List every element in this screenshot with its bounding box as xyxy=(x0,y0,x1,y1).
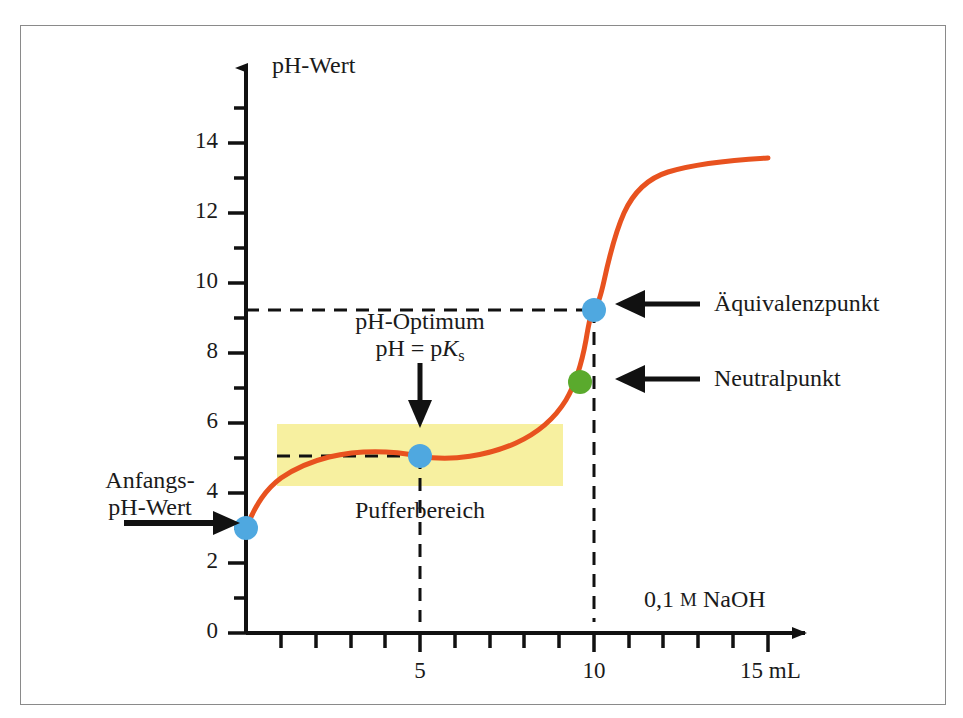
x-tick-label-15-value: 15 xyxy=(740,658,763,683)
annotation-anfangs-line1: Anfangs- xyxy=(74,467,226,494)
y-tick-label-8: 8 xyxy=(180,338,218,364)
y-tick-label-6: 6 xyxy=(180,408,218,434)
point-anfangs-ph-wert xyxy=(234,516,258,540)
x-axis-ticks xyxy=(281,633,768,652)
point-aequivalenzpunkt xyxy=(582,298,606,322)
annotation-neutralpunkt: Neutralpunkt xyxy=(714,365,841,392)
aequivalenzpunkt-arrow-icon xyxy=(615,290,700,318)
y-axis-title: pH-Wert xyxy=(272,52,355,79)
annotation-optimum-line2: pH = pKs xyxy=(300,335,540,365)
y-tick-label-12: 12 xyxy=(162,198,218,224)
annotation-ph-optimum: pH-Optimum pH = pKs xyxy=(300,308,540,365)
x-axis-title-suffix: NaOH xyxy=(697,586,766,612)
annotation-aequivalenzpunkt: Äquivalenzpunkt xyxy=(714,290,879,317)
optimum-arrow-icon xyxy=(408,363,432,428)
annotation-anfangs-line2: pH-Wert xyxy=(74,494,226,521)
y-tick-label-14: 14 xyxy=(162,128,218,154)
annotation-pufferbereich: Pufferbereich xyxy=(320,497,520,524)
x-tick-label-10: 10 xyxy=(570,658,618,684)
annotation-optimum-line1: pH-Optimum xyxy=(300,308,540,335)
figure-canvas: pH-Wert 0 2 4 6 8 10 12 14 5 10 15 mL 0,… xyxy=(0,0,963,718)
x-axis-title: 0,1 M NaOH xyxy=(644,586,766,613)
neutralpunkt-arrow-icon xyxy=(615,365,700,393)
y-tick-label-10: 10 xyxy=(162,268,218,294)
y-tick-label-2: 2 xyxy=(180,548,218,574)
x-tick-label-5: 5 xyxy=(400,658,440,684)
x-tick-label-15: 15 mL xyxy=(740,658,850,684)
x-axis-unit-label: mL xyxy=(769,658,801,683)
y-tick-label-0: 0 xyxy=(180,618,218,644)
point-ph-optimum xyxy=(408,444,432,468)
annotation-anfangs-ph-wert: Anfangs- pH-Wert xyxy=(74,467,226,521)
annotation-optimum-ph-equals: pH = p xyxy=(375,335,442,361)
annotation-optimum-k-italic: K xyxy=(442,335,458,361)
annotation-optimum-s-subscript: s xyxy=(458,345,464,364)
x-axis-title-prefix: 0,1 xyxy=(644,586,680,612)
point-neutralpunkt xyxy=(568,370,592,394)
x-axis-title-molarity: M xyxy=(680,589,697,610)
